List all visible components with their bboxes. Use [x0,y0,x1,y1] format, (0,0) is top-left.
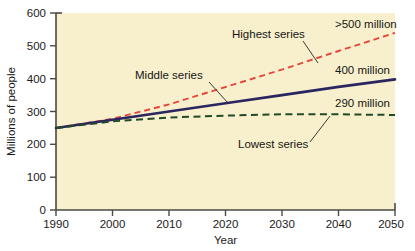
x-tick-label-2020: 2020 [213,218,239,230]
annotation-highest-series-label: Highest series [232,28,305,40]
y-tick-label-500: 500 [27,40,46,52]
annotation-highest-end-value: >500 million [335,18,397,30]
chart-svg: 0 100 200 300 400 500 600 1990 2000 2010… [0,0,415,251]
x-tick-label-2010: 2010 [156,218,182,230]
annotation-lowest-series-label: Lowest series [238,138,309,150]
x-tick-label-2040: 2040 [326,218,352,230]
x-tick-marks [56,210,395,216]
x-tick-label-2050: 2050 [378,218,404,230]
y-tick-label-100: 100 [27,171,46,183]
x-tick-label-2030: 2030 [269,218,295,230]
annotation-middle-end-value: 400 million [335,64,390,76]
population-projection-chart: 0 100 200 300 400 500 600 1990 2000 2010… [0,0,415,251]
y-axis-title: Millions of people [5,67,17,156]
y-tick-marks [50,13,56,210]
annotation-lowest-end-value: 290 million [335,97,390,109]
x-tick-label-2000: 2000 [100,218,126,230]
plot-area-background [56,13,395,210]
x-axis-title: Year [214,234,237,246]
x-tick-label-1990: 1990 [43,218,69,230]
y-tick-label-200: 200 [27,138,46,150]
y-tick-label-0: 0 [40,204,46,216]
y-tick-label-300: 300 [27,106,46,118]
y-tick-label-600: 600 [27,7,46,19]
y-tick-label-400: 400 [27,73,46,85]
annotation-middle-series-label: Middle series [135,69,203,81]
